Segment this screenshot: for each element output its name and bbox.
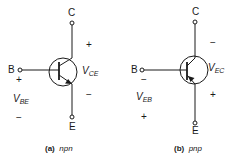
npn-vce-minus: − xyxy=(86,90,92,100)
transistor-diagrams xyxy=(0,0,232,167)
npn-caption: (a) npn xyxy=(45,144,73,153)
npn-vce-label: VCE xyxy=(82,66,98,79)
pnp-collector-label: C xyxy=(192,7,199,17)
pnp-emitter-label: E xyxy=(192,126,199,136)
npn-collector-label: C xyxy=(68,8,75,18)
npn-vbe-plus: + xyxy=(16,75,22,85)
npn-vbe-minus: − xyxy=(16,113,22,123)
pnp-veb-plus: + xyxy=(141,112,147,122)
pnp-vec-minus: − xyxy=(210,38,216,48)
pnp-vec-label: VEC xyxy=(208,63,224,76)
npn-base-label: B xyxy=(8,65,15,75)
pnp-veb-label: VEB xyxy=(136,92,152,105)
pnp-caption: (b) pnp xyxy=(174,144,202,153)
pnp-vec-plus: + xyxy=(210,90,216,100)
npn-emitter-label: E xyxy=(69,122,76,132)
pnp-base-label: B xyxy=(131,65,138,75)
npn-vce-plus: + xyxy=(86,40,92,50)
pnp-veb-minus: − xyxy=(141,75,147,85)
pnp-transistor-symbol xyxy=(140,20,208,125)
npn-vbe-label: VBE xyxy=(13,94,29,107)
